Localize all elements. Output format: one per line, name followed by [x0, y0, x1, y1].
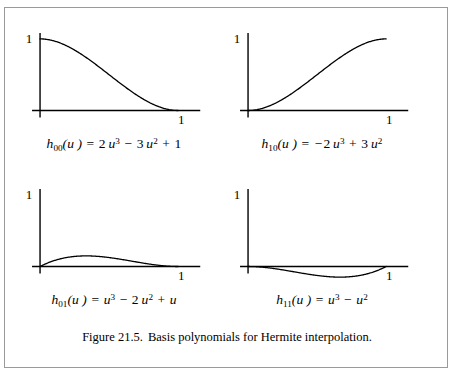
- plot-panel-h11: 11 h11(u ) = u3 − u2: [227, 174, 417, 322]
- curve-h11: [248, 267, 386, 278]
- formula-argument: (u ): [292, 292, 312, 307]
- caption-number: Figure 21.5.: [82, 330, 148, 344]
- formula-sign: −: [314, 136, 324, 151]
- formula-subscript: 11: [283, 299, 292, 309]
- x-tick-label-1: 1: [386, 112, 393, 127]
- x-tick-label-1: 1: [386, 268, 393, 283]
- formula-equals: =: [297, 136, 314, 151]
- y-tick-label-1: 1: [26, 187, 33, 202]
- formula-variable: u: [330, 136, 340, 151]
- formula-sign: +: [153, 292, 170, 307]
- formula-equals: =: [87, 292, 104, 307]
- plot-area-h01: 11: [19, 174, 209, 294]
- formula-variable: u: [328, 292, 335, 307]
- caption-text: Basis polynomials for Hermite interpolat…: [148, 330, 372, 344]
- formula-h10: h10(u ) = −2 u3 + 3 u2: [227, 136, 417, 153]
- formula-coefficient: 3: [137, 136, 144, 151]
- formula-coefficient: 2: [132, 292, 139, 307]
- plot-area-h10: 11: [227, 18, 417, 138]
- x-tick-label-1: 1: [178, 112, 185, 127]
- formula-function-name: h00: [47, 136, 63, 151]
- formula-sign: −: [120, 136, 137, 151]
- x-tick-label-1: 1: [178, 268, 185, 283]
- y-tick-label-1: 1: [26, 31, 33, 46]
- formula-exponent: 2: [378, 136, 383, 146]
- curve-h01: [40, 256, 178, 267]
- plot-svg-h10: 11: [227, 18, 417, 138]
- formula-coefficient: 2: [99, 136, 106, 151]
- formula-exponent: 3: [340, 136, 345, 146]
- formula-argument: (u ): [63, 136, 83, 151]
- plot-panel-h10: 11 h10(u ) = −2 u3 + 3 u2: [227, 18, 417, 166]
- plot-svg-h01: 11: [19, 174, 209, 294]
- formula-h11: h11(u ) = u3 − u2: [227, 292, 417, 309]
- formula-argument: (u ): [67, 292, 87, 307]
- formula-exponent: 3: [335, 292, 340, 302]
- formula-sign: +: [345, 136, 362, 151]
- plot-panel-h00: 11 h00(u ) = 2 u3 − 3 u2 + 1: [19, 18, 209, 166]
- formula-variable: u: [368, 136, 378, 151]
- plot-svg-h11: 11: [227, 174, 417, 294]
- formula-function-name: h11: [276, 292, 292, 307]
- plot-svg-h00: 11: [19, 18, 209, 138]
- y-tick-label-1: 1: [234, 31, 241, 46]
- formula-function-name: h01: [51, 292, 67, 307]
- formula-variable: u: [170, 292, 177, 307]
- formula-sign: −: [340, 292, 357, 307]
- curve-h00: [40, 39, 178, 111]
- formula-coefficient: 1: [175, 136, 182, 151]
- formula-subscript: 10: [268, 143, 277, 153]
- formula-variable: u: [139, 292, 149, 307]
- formula-h00: h00(u ) = 2 u3 − 3 u2 + 1: [19, 136, 209, 153]
- formula-function-name: h10: [261, 136, 277, 151]
- formula-variable: u: [106, 136, 116, 151]
- plot-panel-h01: 11 h01(u ) = u3 − 2 u2 + u: [19, 174, 209, 322]
- formula-h01: h01(u ) = u3 − 2 u2 + u: [19, 292, 209, 309]
- formula-subscript: 00: [53, 143, 62, 153]
- figure-frame: 11 h00(u ) = 2 u3 − 3 u2 + 1 11 h10(u ) …: [4, 7, 448, 368]
- formula-equals: =: [82, 136, 99, 151]
- formula-exponent: 2: [363, 292, 368, 302]
- formula-variable: u: [144, 136, 154, 151]
- y-tick-label-1: 1: [234, 187, 241, 202]
- formula-sign: −: [115, 292, 132, 307]
- formula-equals: =: [311, 292, 328, 307]
- curve-h10: [248, 39, 386, 111]
- plot-area-h11: 11: [227, 174, 417, 294]
- figure-caption: Figure 21.5.Basis polynomials for Hermit…: [5, 330, 449, 345]
- formula-variable: u: [104, 292, 111, 307]
- formula-sign: +: [158, 136, 175, 151]
- plot-area-h00: 11: [19, 18, 209, 138]
- formula-argument: (u ): [278, 136, 298, 151]
